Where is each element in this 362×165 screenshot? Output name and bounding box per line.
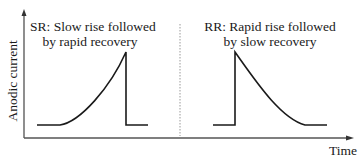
sr-panel-title: SR: Slow rise followed by rapid recovery xyxy=(30,19,150,49)
rr-panel-title: RR: Rapid rise followed by slow recovery xyxy=(200,19,340,49)
rr-waveform xyxy=(213,52,327,125)
sr-title-line2: by rapid recovery xyxy=(30,34,150,49)
x-axis-arrow-icon xyxy=(346,136,354,141)
sr-waveform xyxy=(37,52,148,125)
x-axis xyxy=(24,136,354,141)
rr-title-line1: RR: Rapid rise followed xyxy=(200,19,340,34)
y-axis-label: Anodic current xyxy=(5,42,20,122)
sr-title-line1: SR: Slow rise followed xyxy=(30,19,150,34)
rr-title-line2: by slow recovery xyxy=(200,34,340,49)
x-axis-label: Time xyxy=(329,143,357,158)
y-axis xyxy=(22,9,27,138)
y-axis-arrow-icon xyxy=(22,9,27,16)
